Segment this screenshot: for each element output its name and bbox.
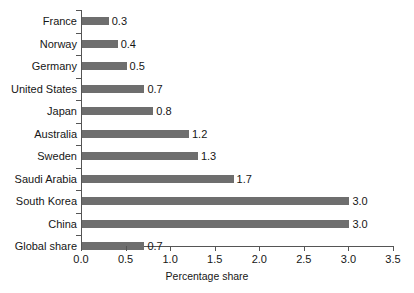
bar: [82, 85, 144, 93]
y-axis-tick: [76, 78, 81, 79]
bar: [82, 130, 189, 138]
x-axis-tick: [304, 246, 305, 251]
x-axis-tick: [348, 246, 349, 251]
bar-chart: France0.3Norway0.4Germany0.5United State…: [0, 0, 414, 293]
y-axis-tick: [76, 55, 81, 56]
y-axis-tick: [76, 33, 81, 34]
bar-row: Norway0.4: [0, 33, 414, 56]
x-axis-tick-label: 3.5: [385, 253, 400, 265]
bar: [82, 242, 144, 250]
bar-row: Japan0.8: [0, 100, 414, 123]
bar-value-label: 0.4: [121, 38, 136, 50]
category-label: Japan: [47, 105, 77, 117]
bar: [82, 62, 127, 70]
bar-value-label: 1.2: [192, 128, 207, 140]
bar-row: Saudi Arabia1.7: [0, 168, 414, 191]
category-label: United States: [11, 83, 77, 95]
x-axis-tick: [215, 246, 216, 251]
x-axis-tick: [259, 246, 260, 251]
category-label: Australia: [34, 128, 77, 140]
x-axis-tick: [126, 246, 127, 251]
bar-row: South Korea3.0: [0, 190, 414, 213]
bar: [82, 107, 153, 115]
x-axis-title: Percentage share: [0, 270, 414, 282]
category-label: China: [48, 218, 77, 230]
x-axis-tick-label: 0.0: [73, 253, 88, 265]
bar-value-label: 0.7: [147, 83, 162, 95]
x-axis-tick-label: 2.5: [296, 253, 311, 265]
x-axis-tick: [393, 246, 394, 251]
bar-value-label: 0.8: [156, 105, 171, 117]
bar-value-label: 0.7: [147, 240, 162, 252]
bar: [82, 152, 198, 160]
x-axis-tick-label: 0.5: [118, 253, 133, 265]
bar: [82, 220, 349, 228]
bar: [82, 175, 234, 183]
x-axis-tick-label: 1.5: [207, 253, 222, 265]
y-axis-tick: [76, 100, 81, 101]
bar-value-label: 3.0: [352, 218, 367, 230]
y-axis-tick: [76, 190, 81, 191]
x-axis-tick-label: 2.0: [252, 253, 267, 265]
x-axis-tick-label: 3.0: [341, 253, 356, 265]
bar: [82, 17, 109, 25]
bar-row: France0.3: [0, 10, 414, 33]
bar-row: Sweden1.3: [0, 145, 414, 168]
bar: [82, 197, 349, 205]
bar-value-label: 0.5: [130, 60, 145, 72]
category-label: Sweden: [37, 150, 77, 162]
bar: [82, 40, 118, 48]
y-axis-tick: [76, 10, 81, 11]
bar-row: United States0.7: [0, 78, 414, 101]
plot-area: France0.3Norway0.4Germany0.5United State…: [0, 0, 414, 293]
bar-row: China3.0: [0, 213, 414, 236]
y-axis-tick: [76, 213, 81, 214]
category-label: Global share: [15, 240, 77, 252]
x-axis-tick-label: 1.0: [162, 253, 177, 265]
x-axis-tick: [170, 246, 171, 251]
x-axis-tick: [81, 246, 82, 251]
bar-row: Australia1.2: [0, 123, 414, 146]
bar-row: Germany0.5: [0, 55, 414, 78]
bar-value-label: 1.3: [201, 150, 216, 162]
category-label: Germany: [32, 60, 77, 72]
y-axis-tick: [76, 168, 81, 169]
bar-value-label: 0.3: [112, 15, 127, 27]
category-label: Saudi Arabia: [15, 173, 77, 185]
y-axis-tick: [76, 123, 81, 124]
bar-value-label: 3.0: [352, 195, 367, 207]
category-label: France: [43, 15, 77, 27]
category-label: Norway: [40, 38, 77, 50]
bar-value-label: 1.7: [237, 173, 252, 185]
category-label: South Korea: [16, 195, 77, 207]
y-axis-tick: [76, 145, 81, 146]
y-axis-tick: [76, 235, 81, 236]
